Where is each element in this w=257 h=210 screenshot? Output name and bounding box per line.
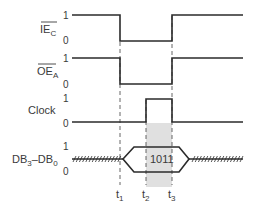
oea-level-1: 1 [63, 53, 69, 64]
db-data-value: 1011 [150, 153, 174, 165]
clock-level-0: 0 [63, 118, 69, 129]
iec-waveform [72, 15, 243, 41]
db-level-0: 0 [63, 166, 69, 177]
clock-waveform [72, 99, 243, 122]
iec-label: IEC [40, 23, 56, 38]
timing-diagram: IEC 1 0 OEA 1 0 Clock 1 0 DB3–DB0 1 0 10… [0, 0, 257, 210]
oea-label: OEA [37, 65, 59, 80]
signal-clock: Clock 1 0 [28, 93, 243, 129]
db-level-1: 1 [63, 141, 69, 152]
iec-level-1: 1 [63, 10, 69, 21]
clock-label: Clock [28, 104, 56, 116]
t1-label: t1 [116, 188, 124, 203]
oea-level-0: 0 [63, 79, 69, 90]
clock-level-1: 1 [63, 93, 69, 104]
t2-label: t2 [142, 188, 150, 203]
iec-level-0: 0 [63, 35, 69, 46]
signal-db-bus: DB3–DB0 1 0 1011 [12, 141, 243, 177]
signal-oea: OEA 1 0 [37, 53, 243, 90]
oea-waveform [72, 58, 243, 84]
db-label: DB3–DB0 [12, 153, 58, 168]
signal-iec: IEC 1 0 [40, 10, 243, 46]
t3-label: t3 [168, 188, 176, 203]
